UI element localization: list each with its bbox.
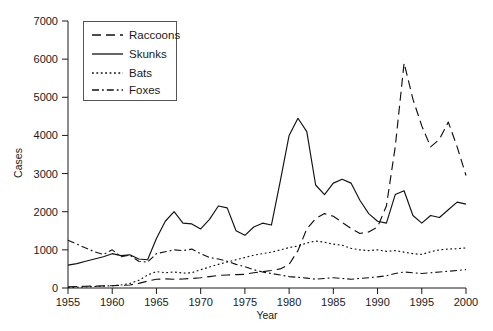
y-tick-label: 5000 bbox=[34, 91, 58, 103]
legend-label-raccoons: Raccoons bbox=[129, 29, 180, 41]
legend-label-bats: Bats bbox=[129, 67, 152, 79]
x-tick-label: 1955 bbox=[56, 296, 80, 308]
x-tick-label: 1960 bbox=[100, 296, 124, 308]
legend-label-skunks: Skunks bbox=[129, 48, 167, 60]
y-tick-label: 7000 bbox=[34, 15, 58, 27]
x-tick-label: 1970 bbox=[188, 296, 212, 308]
x-axis-group: 1955196019651970197519801985199019952000… bbox=[56, 288, 478, 321]
y-tick-label: 4000 bbox=[34, 129, 58, 141]
y-tick-labels: 01000200030004000500060007000 bbox=[34, 15, 58, 294]
chart-canvas: 01000200030004000500060007000 Cases 1955… bbox=[0, 0, 493, 331]
y-tick-label: 0 bbox=[52, 282, 58, 294]
x-tick-label: 1995 bbox=[410, 296, 434, 308]
y-tick-label: 6000 bbox=[34, 53, 58, 65]
x-tick-marks bbox=[68, 288, 466, 294]
x-tick-label: 1990 bbox=[365, 296, 389, 308]
y-tick-label: 3000 bbox=[34, 168, 58, 180]
series-line-foxes bbox=[68, 240, 466, 279]
x-tick-label: 1985 bbox=[321, 296, 345, 308]
series-line-bats bbox=[68, 241, 466, 288]
y-tick-marks bbox=[62, 21, 68, 288]
x-tick-label: 1980 bbox=[277, 296, 301, 308]
y-axis-group: 01000200030004000500060007000 Cases bbox=[12, 15, 68, 294]
x-tick-labels: 1955196019651970197519801985199019952000 bbox=[56, 296, 478, 308]
y-axis-title: Cases bbox=[12, 148, 24, 178]
series-line-skunks bbox=[68, 118, 466, 265]
x-tick-label: 1965 bbox=[144, 296, 168, 308]
y-tick-label: 2000 bbox=[34, 206, 58, 218]
x-axis-title: Year bbox=[256, 309, 278, 321]
y-tick-label: 1000 bbox=[34, 244, 58, 256]
rabies-cases-line-chart: 01000200030004000500060007000 Cases 1955… bbox=[0, 0, 493, 331]
x-tick-label: 1975 bbox=[233, 296, 257, 308]
legend: RaccoonsSkunksBatsFoxes bbox=[84, 22, 181, 101]
legend-label-foxes: Foxes bbox=[129, 84, 161, 96]
x-tick-label: 2000 bbox=[454, 296, 478, 308]
